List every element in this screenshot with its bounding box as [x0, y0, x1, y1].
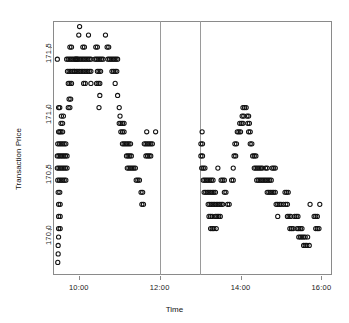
- x-tick-label: 16:00: [305, 283, 337, 292]
- reference-line-12-00: [160, 21, 161, 275]
- plot-panel-frame: [53, 21, 332, 275]
- y-tick-label: 170.5: [44, 152, 53, 184]
- x-tick-label: 10:00: [63, 283, 95, 292]
- x-tick-mark: [241, 276, 242, 280]
- reference-line-13-00: [200, 21, 201, 275]
- x-tick-label: 14:00: [225, 283, 257, 292]
- y-axis-title: Transaction Price: [14, 128, 23, 190]
- x-tick-mark: [160, 276, 161, 280]
- scatter-plot-figure: 10:0012:0014:0016:00 170.0170.5171.0171.…: [0, 0, 349, 323]
- y-tick-label: 171.0: [44, 92, 53, 124]
- x-axis-title: Time: [0, 305, 349, 314]
- x-tick-mark: [79, 276, 80, 280]
- y-tick-label: 171.5: [44, 31, 53, 63]
- x-tick-label: 12:00: [144, 283, 176, 292]
- y-tick-label: 170.0: [44, 213, 53, 245]
- x-tick-mark: [321, 276, 322, 280]
